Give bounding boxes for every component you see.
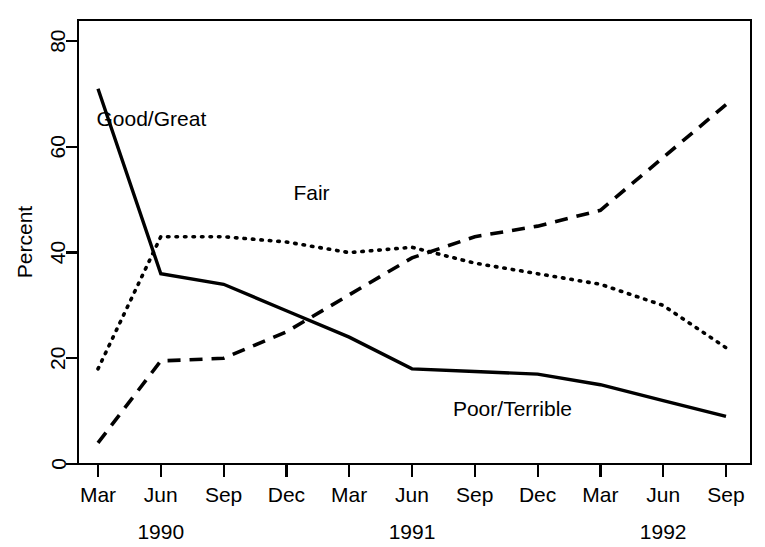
x-tick-label: Sep [707, 483, 744, 506]
x-tick-label: Jun [144, 483, 178, 506]
line-chart: 020406080 MarJunSepDecMarJunSepDecMarJun… [0, 0, 765, 547]
x-tick-label: Dec [519, 483, 556, 506]
y-axis-title: Percent [13, 206, 36, 279]
y-tick-label: 60 [47, 135, 70, 158]
x-tick-label: Mar [80, 483, 116, 506]
x-tick-label: Jun [395, 483, 429, 506]
y-tick-label: 20 [47, 347, 70, 370]
y-tick-label: 80 [47, 29, 70, 52]
y-axis-label: Percent [13, 206, 36, 279]
x-tick-label: Sep [205, 483, 242, 506]
series-label: Good/Great [97, 107, 207, 130]
x-tick-label: Jun [646, 483, 680, 506]
year-label: 1992 [640, 520, 687, 543]
x-tick-label: Mar [582, 483, 618, 506]
year-label: 1991 [389, 520, 436, 543]
x-tick-label: Dec [268, 483, 305, 506]
year-label: 1990 [137, 520, 184, 543]
chart-container: 020406080 MarJunSepDecMarJunSepDecMarJun… [0, 0, 765, 547]
x-tick-label: Mar [331, 483, 367, 506]
series-label: Fair [293, 181, 329, 204]
y-tick-label: 40 [47, 241, 70, 264]
series-label: Poor/Terrible [453, 397, 572, 420]
x-tick-label: Sep [456, 483, 493, 506]
y-tick-label: 0 [47, 458, 70, 470]
